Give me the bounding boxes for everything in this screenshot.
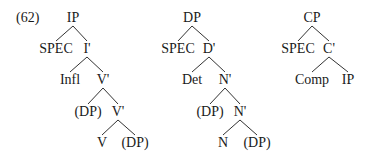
node-n: N — [218, 136, 228, 150]
tree-branch — [178, 26, 192, 41]
node-i-bar: I' — [83, 42, 90, 56]
node-ip: IP — [342, 73, 354, 87]
tree-branch — [87, 57, 103, 72]
tree-branch — [102, 120, 118, 135]
node-n-bar: N' — [219, 73, 232, 87]
tree-branch — [223, 120, 240, 135]
tree-branch — [240, 120, 257, 135]
node-dp-specifier: (DP) — [196, 105, 223, 119]
tree-branch — [209, 57, 225, 72]
node-dp: DP — [183, 11, 201, 25]
node-n-bar-lower: N' — [234, 105, 247, 119]
tree-branch — [88, 88, 103, 104]
tree-branch — [118, 120, 135, 135]
node-comp: Comp — [295, 73, 329, 87]
syntax-tree-diagram: (62) IP SPEC I' Infl V' (DP) V' V (DP) D… — [0, 0, 369, 160]
node-c-bar: C' — [323, 42, 335, 56]
node-v: V — [97, 136, 107, 150]
node-cp: CP — [303, 11, 320, 25]
node-dp-complement: (DP) — [121, 136, 148, 150]
node-infl: Infl — [60, 73, 80, 87]
tree-branch — [73, 26, 87, 41]
tree-branch — [56, 26, 73, 41]
node-dp-complement: (DP) — [243, 136, 270, 150]
tree-branch — [312, 57, 329, 72]
node-det: Det — [182, 73, 202, 87]
tree-branch — [225, 88, 240, 104]
tree-branch — [70, 57, 87, 72]
tree-branch — [210, 88, 225, 104]
tree-branch — [329, 57, 348, 72]
tree-branch — [192, 26, 209, 41]
node-spec: SPEC — [281, 42, 314, 56]
tree-branch — [298, 26, 312, 41]
node-d-bar: D' — [203, 42, 216, 56]
node-v-bar: V' — [97, 73, 110, 87]
node-spec: SPEC — [39, 42, 72, 56]
tree-branch — [103, 88, 118, 104]
node-dp-specifier: (DP) — [74, 105, 101, 119]
node-v-bar-lower: V' — [112, 105, 125, 119]
tree-branch — [192, 57, 209, 72]
node-ip: IP — [67, 11, 79, 25]
node-spec: SPEC — [161, 42, 194, 56]
tree-branch — [312, 26, 329, 41]
